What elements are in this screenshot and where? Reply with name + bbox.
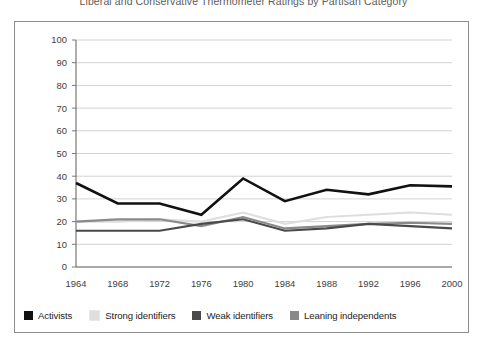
x-tick-label: 1984 <box>274 278 295 289</box>
gridlines <box>76 40 452 267</box>
legend-swatch-icon <box>290 311 299 320</box>
legend-label: Activists <box>38 310 72 321</box>
series-line <box>76 178 452 214</box>
legend-label: Strong identifiers <box>105 310 175 321</box>
x-tick-label: 1976 <box>191 278 212 289</box>
y-tick-label: 20 <box>57 216 67 227</box>
y-tick-label: 70 <box>57 103 67 114</box>
x-tick-label: 2000 <box>442 278 463 289</box>
x-tick-label: 1968 <box>107 278 128 289</box>
y-tick-label: 100 <box>51 34 67 45</box>
x-tick-label: 1980 <box>233 278 254 289</box>
y-tick-label: 50 <box>57 148 67 159</box>
y-tick-labels: 0102030405060708090100 <box>51 34 67 272</box>
y-tick-label: 60 <box>57 125 67 136</box>
y-tick-label: 80 <box>57 80 67 91</box>
x-tick-label: 1988 <box>316 278 337 289</box>
legend-swatch-icon <box>192 311 201 320</box>
legend-swatch-icon <box>24 311 33 320</box>
chart-title: Liberal and Conservative Thermometer Rat… <box>0 0 487 7</box>
legend-item[interactable]: Weak identifiers <box>192 310 272 321</box>
y-tick-label: 30 <box>57 193 67 204</box>
y-tick-label: 10 <box>57 239 67 250</box>
data-series <box>76 178 452 230</box>
legend-label: Weak identifiers <box>206 310 272 321</box>
legend-swatch-icon <box>89 310 100 321</box>
legend-label: Leaning independents <box>304 310 396 321</box>
legend-item[interactable]: Strong identifiers <box>89 310 175 321</box>
chart-frame: 0102030405060708090100 19641968197219761… <box>14 21 469 333</box>
line-chart-plot: 0102030405060708090100 19641968197219761… <box>15 22 467 331</box>
y-tick-label: 0 <box>62 261 67 272</box>
y-tick-label: 40 <box>57 171 67 182</box>
y-tick-label: 90 <box>57 57 67 68</box>
x-tick-labels: 1964196819721976198019841988199219962000 <box>66 278 463 289</box>
legend-item[interactable]: Activists <box>24 310 72 321</box>
legend: ActivistsStrong identifiersWeak identifi… <box>24 306 474 324</box>
x-tick-label: 1964 <box>66 278 87 289</box>
x-tick-label: 1972 <box>149 278 170 289</box>
figure: Liberal and Conservative Thermometer Rat… <box>0 0 487 347</box>
x-tick-label: 1996 <box>400 278 421 289</box>
legend-item[interactable]: Leaning independents <box>290 310 396 321</box>
x-tick-label: 1992 <box>358 278 379 289</box>
